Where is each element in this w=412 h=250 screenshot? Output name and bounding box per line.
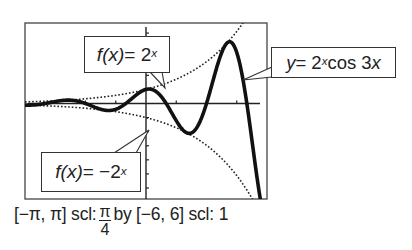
callout-2x-cos-3x: y = 2xcos 3x	[271, 47, 396, 78]
callout-lower-lhs: f(x)	[55, 161, 82, 183]
callout-right-rest: cos 3	[327, 52, 371, 74]
callout-lower-eq: = −2	[83, 161, 121, 183]
callout-upper-lhs: f(x)	[97, 44, 124, 66]
callout-neg-2x: f(x) = −2x	[41, 152, 141, 192]
caption-x-scale-fraction: π 4	[99, 204, 112, 238]
callout-f-2x: f(x) = 2x	[84, 36, 170, 73]
callout-right-eq: = 2	[295, 52, 321, 74]
callout-right-lhs: y	[286, 52, 295, 74]
callout-right-var: x	[372, 52, 381, 74]
caption-x-range: [−π, π] scl:	[14, 204, 97, 225]
caption-y-range: by [−6, 6] scl: 1	[113, 204, 228, 225]
window-settings-caption: [−π, π] scl: π 4 by [−6, 6] scl: 1	[14, 204, 284, 238]
callout-upper-exp: x	[151, 46, 157, 59]
callout-right-exp: x	[322, 55, 328, 67]
fraction-denominator: 4	[101, 221, 110, 238]
callout-upper-eq: = 2	[124, 44, 151, 66]
callout-lower-exp: x	[121, 164, 127, 177]
fraction-numerator: π	[99, 204, 112, 221]
